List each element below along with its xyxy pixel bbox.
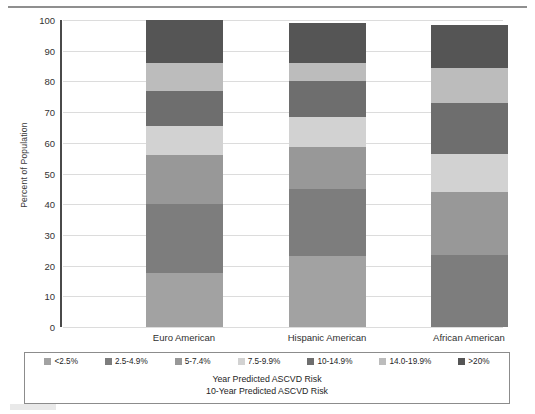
- y-tick-label: 80: [44, 76, 55, 87]
- bar-segment: [431, 103, 508, 154]
- y-axis-line: [60, 20, 62, 327]
- legend-swatch-icon: [44, 358, 51, 365]
- y-tick-label: 40: [44, 199, 55, 210]
- bar-segment: [289, 147, 366, 188]
- legend-item-label: 10-14.9%: [317, 357, 352, 366]
- bar-segment: [289, 117, 366, 148]
- bar-segment: [289, 256, 366, 327]
- bar-segment: [146, 204, 223, 273]
- legend-swatch-icon: [238, 358, 245, 365]
- legend-item[interactable]: 14.0-19.9%: [379, 357, 431, 366]
- bar-segment: [146, 63, 223, 91]
- category-label: African American: [389, 332, 535, 343]
- legend-item-label: 5-7.4%: [185, 357, 211, 366]
- bar-segment: [431, 154, 508, 192]
- stacked-bar: [289, 20, 366, 327]
- legend-swatch-icon: [379, 358, 386, 365]
- legend-swatch-icon: [175, 358, 182, 365]
- y-tick-label: 30: [44, 229, 55, 240]
- y-tick-label: 60: [44, 137, 55, 148]
- category-label: Euro American: [104, 332, 264, 343]
- legend-item-label: >20%: [468, 357, 489, 366]
- bar-segment: [289, 23, 366, 63]
- stacked-bar: [146, 20, 223, 327]
- legend-item[interactable]: >20%: [458, 357, 489, 366]
- legend-item[interactable]: 5-7.4%: [175, 357, 211, 366]
- legend-items-row: <2.5%2.5-4.9%5-7.4%7.5-9.9%10-14.9%14.0-…: [25, 357, 509, 366]
- bar-segment: [431, 192, 508, 255]
- legend-swatch-icon: [307, 358, 314, 365]
- bar-segment: [146, 155, 223, 204]
- bar-segment: [146, 20, 223, 63]
- legend-item[interactable]: 2.5-4.9%: [105, 357, 148, 366]
- stacked-bar: [431, 20, 508, 327]
- bar-segment: [289, 81, 366, 116]
- legend-box: <2.5%2.5-4.9%5-7.4%7.5-9.9%10-14.9%14.0-…: [24, 352, 510, 404]
- legend-item-label: <2.5%: [54, 357, 77, 366]
- legend-item-label: 14.0-19.9%: [389, 357, 431, 366]
- page-bottom-mark: [10, 404, 56, 410]
- category-label: Hispanic American: [247, 332, 407, 343]
- plot-area: 0102030405060708090100 Euro AmericanHisp…: [63, 20, 503, 327]
- y-tick-label: 90: [44, 45, 55, 56]
- legend-item-label: 7.5-9.9%: [248, 357, 281, 366]
- legend-item-label: 2.5-4.9%: [115, 357, 148, 366]
- y-axis-title: Percent of Population: [19, 95, 29, 235]
- bar-segment: [289, 189, 366, 257]
- y-tick-label: 20: [44, 260, 55, 271]
- bar-segment: [431, 255, 508, 327]
- bar-segment: [146, 126, 223, 155]
- bar-segment: [431, 68, 508, 103]
- legend-item[interactable]: 10-14.9%: [307, 357, 352, 366]
- legend-swatch-icon: [105, 358, 112, 365]
- bar-segment: [289, 63, 366, 81]
- y-tick-label: 100: [39, 15, 55, 26]
- bar-segment: [146, 273, 223, 327]
- legend-item[interactable]: 7.5-9.9%: [238, 357, 281, 366]
- y-tick-label: 50: [44, 168, 55, 179]
- top-horizontal-rule: [8, 6, 527, 8]
- figure-container: Percent of Population 010203040506070809…: [0, 10, 535, 400]
- legend-item[interactable]: <2.5%: [44, 357, 77, 366]
- y-tick-label: 70: [44, 107, 55, 118]
- y-tick-label: 0: [50, 322, 55, 333]
- legend-caption-line-2: 10-Year Predicted ASCVD Risk: [25, 386, 509, 396]
- gridline: [63, 327, 503, 328]
- bar-segment: [431, 25, 508, 68]
- y-tick-label: 10: [44, 291, 55, 302]
- legend-caption-line-1: Year Predicted ASCVD Risk: [25, 374, 509, 384]
- bar-segment: [146, 91, 223, 126]
- legend-swatch-icon: [458, 358, 465, 365]
